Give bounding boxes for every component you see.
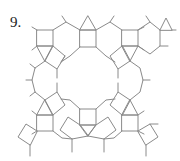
tiling-lines	[18, 16, 176, 156]
tiling-diagram	[0, 0, 180, 161]
